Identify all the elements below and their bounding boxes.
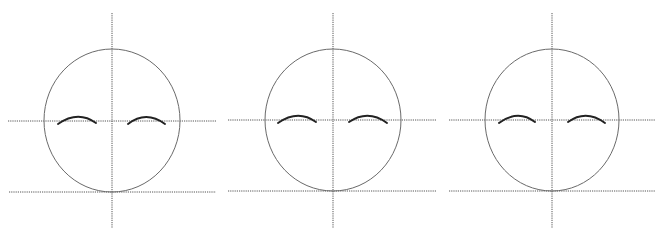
face-panel-3 xyxy=(449,13,655,228)
left-eyebrow-arc xyxy=(278,116,316,123)
right-eyebrow-arc xyxy=(568,116,605,123)
left-eyebrow-arc xyxy=(58,117,96,124)
face-panel-1 xyxy=(8,13,216,228)
face-panel-2 xyxy=(228,13,437,228)
right-eyebrow-arc xyxy=(128,117,165,124)
left-eyebrow-arc xyxy=(499,116,535,123)
right-eyebrow-arc xyxy=(349,116,387,123)
diagram-canvas xyxy=(0,0,669,252)
face-construction-diagram xyxy=(0,0,669,252)
